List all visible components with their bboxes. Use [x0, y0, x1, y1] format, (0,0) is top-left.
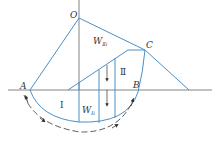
- rotation-arrow-mid-right: [112, 125, 117, 128]
- region-1-label: Ⅰ: [60, 101, 64, 110]
- radius-oc: [79, 18, 145, 50]
- radius-oa: [30, 18, 79, 90]
- weight-2-label: WⅡi: [93, 37, 107, 47]
- slope-line: [145, 50, 189, 90]
- weight-1-label: WⅠi: [82, 106, 95, 116]
- point-b-label: B: [133, 81, 140, 90]
- point-o-label: O: [70, 11, 77, 20]
- point-a-label: A: [20, 82, 27, 91]
- region-2-label: Ⅱ: [120, 68, 126, 77]
- diagram-lines: [0, 0, 219, 141]
- slip-circle-diagram: O C A B WⅡi WⅠi Ⅱ Ⅰ: [0, 0, 219, 141]
- point-c-label: C: [146, 41, 153, 50]
